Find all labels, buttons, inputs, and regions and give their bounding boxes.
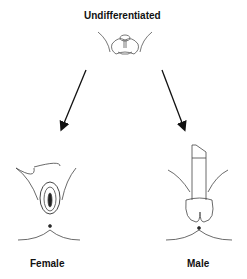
male-illustration-icon — [166, 145, 232, 240]
female-label: Female — [30, 258, 64, 269]
arrow-to-male-icon — [162, 70, 184, 128]
undifferentiated-illustration-icon — [98, 32, 152, 54]
male-label: Male — [187, 258, 209, 269]
female-illustration-icon — [16, 163, 80, 240]
diagram-canvas — [0, 0, 247, 279]
arrow-to-female-icon — [62, 70, 86, 128]
